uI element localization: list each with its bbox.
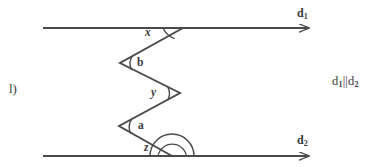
angle-label-b: b [137, 57, 143, 69]
line-label-d2: d2 [297, 134, 308, 148]
parallel-relation-label: d1||d2 [332, 75, 359, 89]
angle-label-a: a [138, 120, 144, 132]
line-label-d2-subscript: 2 [304, 139, 308, 148]
angle-arc-a [129, 120, 131, 134]
line-label-d1-subscript: 1 [304, 12, 308, 21]
angle-label-y: y [151, 87, 156, 99]
item-number-label: l) [9, 82, 17, 95]
geometry-figure: l) x b y a z d1 d2 d1||d2 [0, 0, 386, 167]
relation-line2-subscript: 2 [355, 80, 359, 89]
angle-arc-y [168, 87, 170, 100]
angle-label-x: x [145, 27, 151, 39]
line-label-d1-base: d [297, 6, 304, 20]
angle-label-z: z [144, 142, 148, 154]
angle-arc-z [150, 134, 194, 156]
line-label-d1: d1 [297, 7, 308, 21]
figure-canvas [0, 0, 386, 167]
line-label-d2-base: d [297, 133, 304, 147]
